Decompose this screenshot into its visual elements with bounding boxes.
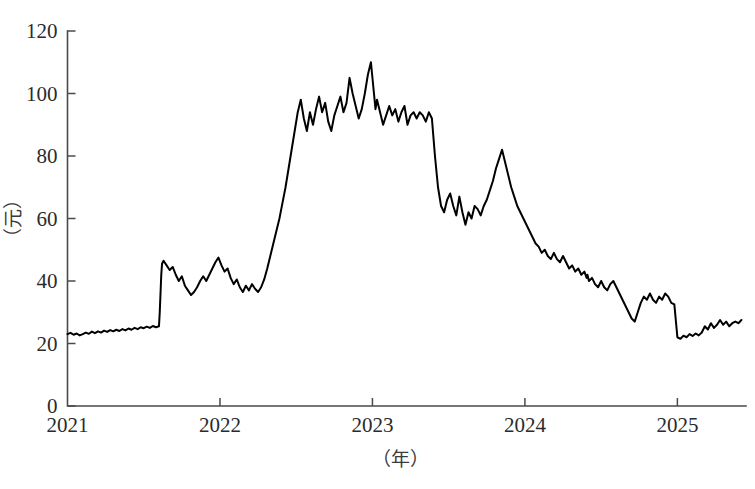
y-tick-label: 0	[47, 394, 58, 418]
x-tick-label: 2024	[504, 413, 547, 437]
chart-canvas: 20212022202320242025 020406080100120 （年）…	[0, 0, 755, 489]
x-axis-tick-marks	[220, 398, 677, 406]
axis-lines	[68, 31, 747, 406]
y-tick-label: 20	[37, 332, 58, 356]
x-tick-label: 2025	[656, 413, 698, 437]
y-tick-label: 120	[26, 19, 58, 43]
y-axis-tick-labels: 020406080100120	[26, 19, 58, 418]
y-axis-title: （元）	[3, 190, 24, 247]
y-tick-label: 80	[37, 144, 58, 168]
price-series-line	[68, 62, 742, 339]
x-tick-label: 2023	[351, 413, 393, 437]
y-tick-label: 60	[37, 207, 58, 231]
y-tick-label: 100	[26, 82, 58, 106]
y-axis-tick-marks	[68, 31, 76, 406]
x-tick-label: 2022	[199, 413, 241, 437]
price-line-chart: 20212022202320242025 020406080100120 （年）…	[0, 0, 755, 489]
y-tick-label: 40	[37, 269, 58, 293]
x-axis-title: （年）	[372, 449, 429, 470]
plot-area: 20212022202320242025 020406080100120	[26, 19, 746, 437]
x-axis-tick-labels: 20212022202320242025	[47, 413, 699, 437]
